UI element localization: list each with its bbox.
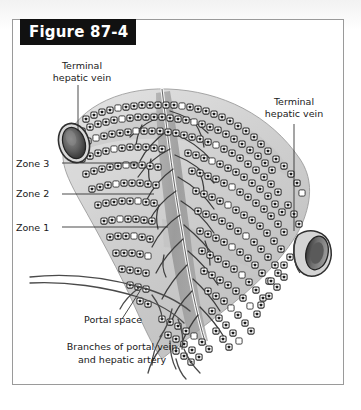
label-zone-1: Zone 1 [16,222,49,234]
label-zone-3: Zone 3 [16,158,49,170]
figure-number-label: Figure 87-4 [20,23,128,41]
terminal-hepatic-vein-right-vessel [294,231,332,276]
label-zone-2: Zone 2 [16,188,49,200]
label-portal-space: Portal space [84,314,142,326]
label-branches-portal-vein-hepatic-artery: Branches of portal vein and hepatic arte… [27,340,217,366]
figure-page: Figure 87-4 Terminal hepatic vein Termin… [0,0,361,410]
label-terminal-hepatic-vein-left: Terminal hepatic vein [40,60,124,84]
figure-number-banner: Figure 87-4 [20,19,136,45]
label-terminal-hepatic-vein-right: Terminal hepatic vein [252,96,336,120]
